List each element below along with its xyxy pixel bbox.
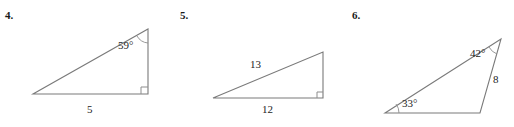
right-angle-marker-icon: [317, 92, 323, 98]
side-label-8: 8: [493, 74, 499, 85]
side-label-5: 5: [87, 104, 93, 115]
triangle-outline-5: [213, 52, 323, 98]
problem-5: 5. 13 12: [171, 0, 342, 127]
triangle-figure-4: [0, 0, 171, 127]
angle-arc-icon: [137, 36, 148, 43]
angle-label-59: 59°: [118, 40, 133, 51]
worksheet-page: 4. 59° 5 5. 13 12 6. 42°: [0, 0, 514, 127]
angle-label-33: 33°: [402, 98, 417, 109]
side-label-12: 12: [262, 104, 273, 115]
angle-arc-icon: [489, 47, 497, 54]
angle-label-42: 42°: [470, 48, 485, 59]
triangle-figure-6: [342, 0, 514, 127]
side-label-13: 13: [250, 59, 261, 70]
right-angle-marker-icon: [141, 87, 148, 94]
problem-6: 6. 42° 8 33°: [342, 0, 513, 127]
problem-4: 4. 59° 5: [0, 0, 171, 127]
